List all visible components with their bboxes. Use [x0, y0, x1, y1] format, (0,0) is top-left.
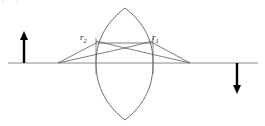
ray-path-r1-incoming — [58, 41, 153, 63]
image-arrow-head-down — [233, 85, 241, 94]
lens-right-surface-arc — [125, 8, 153, 120]
ray-path-r1-outgoing — [96, 41, 190, 63]
ray-path-r2 — [58, 43, 190, 63]
ray-label-r2: r2 — [80, 32, 88, 44]
lens-left-surface-arc — [96, 8, 125, 120]
ray-label-r1: r1 — [152, 32, 159, 44]
ray-label-r2-subscript: 2 — [84, 37, 88, 44]
ray-diagram-canvas: r2 r1 — [0, 0, 265, 126]
object-arrow-head-up — [20, 31, 28, 40]
ray-diagram-figure: (" " ) " r2 r1 — [0, 0, 265, 126]
ray-label-r1-subscript: 1 — [156, 37, 159, 44]
